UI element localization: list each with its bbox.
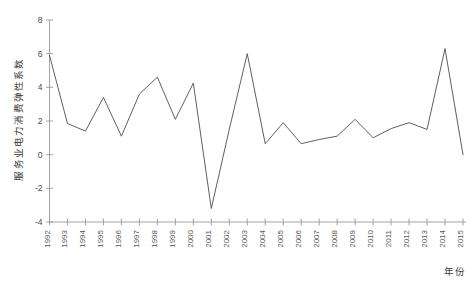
x-axis-tick-label: 2012: [402, 229, 411, 247]
y-axis-tick-label: 0: [38, 150, 43, 160]
y-axis-tick-label: -4: [35, 217, 43, 227]
chart-figure: 服务业电力消费弹性系数 年份 86420-2-4 199219931994199…: [0, 0, 474, 282]
x-axis-tick-label: 2010: [366, 229, 375, 247]
x-axis-tick-label: 2007: [312, 229, 321, 247]
x-axis-tick-label: 2001: [204, 229, 213, 247]
y-axis-tick-label: 4: [38, 82, 43, 92]
y-axis-tick-label: 6: [38, 49, 43, 59]
chart-plot-area: 86420-2-4 199219931994199519961997199819…: [0, 0, 474, 282]
x-axis-tick-label: 1997: [132, 229, 141, 247]
x-axis-tick-label: 1999: [168, 229, 177, 247]
x-axis-tick-label: 2009: [348, 229, 357, 247]
x-axis-tick-label: 2015: [456, 229, 465, 247]
y-axis: 86420-2-4: [35, 15, 53, 227]
y-axis-tick-label: -2: [35, 183, 43, 193]
x-axis-tick-label: 2003: [240, 229, 249, 247]
data-line-series: [50, 49, 464, 209]
x-axis-tick-label: 1993: [60, 229, 69, 247]
x-axis-tick-label: 2000: [186, 229, 195, 247]
x-axis-tick-label: 1998: [150, 229, 159, 247]
x-axis-tick-label: 2014: [438, 229, 447, 247]
x-axis-tick-label: 2004: [258, 229, 267, 247]
y-axis-tick-label: 8: [38, 15, 43, 25]
x-axis-tick-label: 1994: [78, 229, 87, 247]
x-axis-tick-label: 2013: [420, 229, 429, 247]
x-axis-tick-label: 2008: [330, 229, 339, 247]
x-axis: 1992199319941995199619971998199920002001…: [43, 219, 467, 248]
x-axis-tick-label: 1996: [114, 229, 123, 247]
x-axis-tick-label: 2002: [222, 229, 231, 247]
x-axis-tick-label: 2005: [276, 229, 285, 247]
x-axis-tick-label: 2011: [384, 229, 393, 247]
x-axis-tick-label: 1992: [43, 229, 52, 247]
x-axis-tick-label: 1995: [96, 229, 105, 247]
x-axis-tick-label: 2006: [294, 229, 303, 247]
y-axis-tick-label: 2: [38, 116, 43, 126]
